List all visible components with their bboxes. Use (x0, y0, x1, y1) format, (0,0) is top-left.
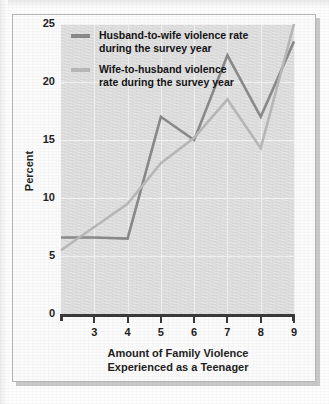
x-tick-label: 3 (82, 326, 106, 338)
x-tick-label: 8 (249, 326, 273, 338)
y-tick-label: 0 (29, 307, 55, 319)
y-tick-label: 25 (29, 17, 55, 29)
x-tick-mark (127, 317, 129, 323)
legend-label: Wife-to-husband violence rate during the… (99, 63, 234, 88)
x-tick-label: 7 (215, 326, 239, 338)
gridline-vertical (294, 24, 295, 314)
x-tick-mark (293, 317, 295, 323)
legend-item-husband-to-wife: Husband-to-wife violence rate during the… (71, 29, 281, 54)
x-tick-mark (226, 317, 228, 323)
x-tick-mark (93, 317, 95, 323)
chart-legend: Husband-to-wife violence rate during the… (71, 29, 281, 97)
x-axis-title-line-2: Experienced as a Teenager (53, 360, 303, 374)
x-axis-title: Amount of Family Violence Experienced as… (53, 346, 303, 374)
legend-line-swatch (71, 34, 90, 38)
chart-figure-panel: 0510152025 Percent 3456789 Amount of Fam… (12, 14, 316, 382)
legend-line-swatch (71, 68, 90, 72)
y-axis-title: Percent (23, 131, 35, 211)
y-tick-label: 5 (29, 249, 55, 261)
x-axis-title-line-1: Amount of Family Violence (53, 346, 303, 360)
x-axis-left-cap (60, 314, 63, 321)
scanned-page: 0510152025 Percent 3456789 Amount of Fam… (0, 0, 329, 404)
y-tick-label: 20 (29, 75, 55, 87)
x-tick-mark (160, 317, 162, 323)
x-tick-label: 6 (182, 326, 206, 338)
x-tick-label: 5 (149, 326, 173, 338)
x-tick-mark (260, 317, 262, 323)
x-tick-label: 4 (116, 326, 140, 338)
legend-item-wife-to-husband: Wife-to-husband violence rate during the… (71, 63, 281, 88)
legend-label: Husband-to-wife violence rate during the… (99, 29, 248, 54)
x-tick-label: 9 (282, 326, 306, 338)
scan-edge-top (0, 0, 329, 9)
x-tick-mark (193, 317, 195, 323)
scan-edge-left (0, 0, 8, 404)
